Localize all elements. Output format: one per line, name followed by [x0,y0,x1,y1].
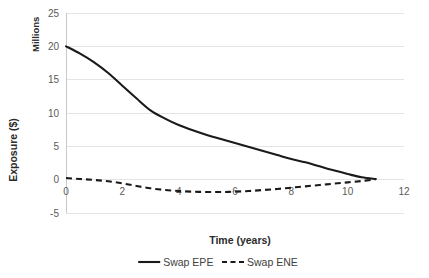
x-tick-label: 2 [120,186,126,197]
x-tick-label: 10 [342,186,354,197]
y-tick-label: 10 [48,108,60,119]
chart-container: 2520151050-5 024681012 Millions Exposure… [0,0,429,278]
y-tick-label: 5 [53,141,59,152]
y-tick-label: 0 [53,174,59,185]
x-axis-title: Time (years) [209,234,271,246]
exposure-profile-chart: 2520151050-5 024681012 Millions Exposure… [0,0,429,278]
legend-label-swap-ene: Swap ENE [247,256,298,268]
y-tick-label: -5 [50,208,59,219]
legend-label-swap-epe: Swap EPE [163,256,213,268]
y-tick-label: 25 [48,8,60,19]
y-axis-unit-label: Millions [30,17,41,52]
series-group [66,46,376,192]
x-tick-label: 0 [63,186,69,197]
legend: Swap EPESwap ENE [138,256,298,268]
y-axis-title: Exposure ($) [7,118,19,182]
y-tick-label: 20 [48,41,60,52]
y-tick-labels: 2520151050-5 [48,8,60,219]
x-tick-label: 12 [398,186,410,197]
y-tick-label: 15 [48,74,60,85]
